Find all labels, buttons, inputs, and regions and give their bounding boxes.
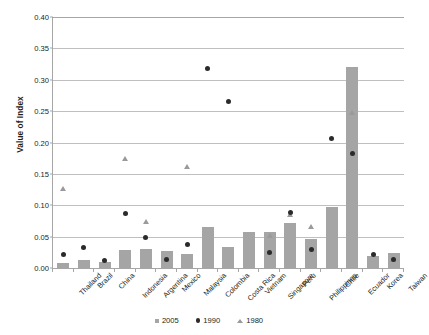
category-column <box>218 17 239 268</box>
y-tick-label: 0.15 <box>34 169 49 178</box>
x-tick-mark <box>52 269 53 272</box>
legend-item-2005[interactable]: 2005 <box>155 316 179 325</box>
point-1990 <box>143 235 148 240</box>
category-column <box>156 17 177 268</box>
y-tick-label: 0.20 <box>34 138 49 147</box>
bar-2005 <box>119 250 131 268</box>
bar-2005 <box>57 263 69 268</box>
bar-2005 <box>99 262 111 268</box>
legend-square-icon <box>155 319 159 323</box>
category-column <box>383 17 404 268</box>
x-tick-mark <box>362 269 363 272</box>
bar-2005 <box>222 247 234 268</box>
category-column <box>74 17 95 268</box>
x-tick-mark <box>403 269 404 272</box>
point-1980 <box>60 186 66 191</box>
bar-2005 <box>367 256 379 268</box>
y-tick-label: 0.25 <box>34 107 49 116</box>
plot-area: 0.000.050.100.150.200.250.300.350.40 <box>52 17 404 269</box>
legend-label: 1980 <box>246 316 263 325</box>
x-tick-mark <box>73 269 74 272</box>
x-tick-mark <box>217 269 218 272</box>
point-1990 <box>185 242 190 247</box>
point-1980 <box>349 110 355 115</box>
x-tick-label: Peru <box>301 271 318 288</box>
point-1990 <box>391 257 396 262</box>
bar-2005 <box>346 67 358 268</box>
y-tick-label: 0.00 <box>34 264 49 273</box>
category-column <box>342 17 363 268</box>
bar-2005 <box>78 260 90 268</box>
x-tick-mark <box>176 269 177 272</box>
bar-2005 <box>140 249 152 268</box>
point-1990 <box>329 136 334 141</box>
category-column <box>53 17 74 268</box>
point-1980 <box>308 224 314 229</box>
bar-2005 <box>284 223 296 268</box>
category-column <box>239 17 260 268</box>
x-tick-label: China <box>116 271 136 291</box>
point-1990 <box>309 247 314 252</box>
y-tick-label: 0.30 <box>34 75 49 84</box>
point-1990 <box>226 99 231 104</box>
x-tick-mark <box>238 269 239 272</box>
bar-2005 <box>305 239 317 268</box>
y-axis-title: Value of Index <box>16 55 25 195</box>
category-column <box>301 17 322 268</box>
category-column <box>280 17 301 268</box>
y-tick-label: 0.35 <box>34 44 49 53</box>
bar-2005 <box>202 227 214 268</box>
x-tick-label: Taiwan <box>406 271 428 293</box>
chart-legend: 200519901980 <box>0 316 418 325</box>
y-tick-label: 0.10 <box>34 201 49 210</box>
category-column <box>94 17 115 268</box>
point-1990 <box>205 66 210 71</box>
point-1980 <box>184 164 190 169</box>
category-column <box>259 17 280 268</box>
x-tick-mark <box>382 269 383 272</box>
x-tick-mark <box>197 269 198 272</box>
category-column <box>363 17 384 268</box>
bar-2005 <box>326 207 338 268</box>
point-1980 <box>143 219 149 224</box>
legend-item-1990[interactable]: 1990 <box>196 316 220 325</box>
bar-2005 <box>181 254 193 268</box>
category-column <box>136 17 157 268</box>
point-1990 <box>350 151 355 156</box>
y-tick-label: 0.05 <box>34 232 49 241</box>
x-tick-mark <box>93 269 94 272</box>
x-axis-labels: ThailandBrazilChinaIndonesiaArgentinaMex… <box>52 271 404 316</box>
point-1990 <box>61 252 66 257</box>
point-1980 <box>267 233 273 238</box>
x-tick-mark <box>135 269 136 272</box>
legend-item-1980[interactable]: 1980 <box>237 316 263 325</box>
point-1990 <box>81 245 86 250</box>
category-column <box>321 17 342 268</box>
point-1990 <box>123 211 128 216</box>
category-column <box>198 17 219 268</box>
bar-2005 <box>243 232 255 268</box>
x-tick-mark <box>258 269 259 272</box>
series-layer <box>53 17 404 268</box>
legend-label: 1990 <box>203 316 220 325</box>
x-tick-mark <box>320 269 321 272</box>
legend-circle-icon <box>196 318 201 323</box>
x-tick-mark <box>341 269 342 272</box>
y-tick-label: 0.40 <box>34 13 49 22</box>
x-tick-mark <box>114 269 115 272</box>
x-tick-mark <box>279 269 280 272</box>
category-column <box>115 17 136 268</box>
x-tick-mark <box>300 269 301 272</box>
point-1980 <box>122 156 128 161</box>
point-1990 <box>371 252 376 257</box>
category-column <box>177 17 198 268</box>
legend-triangle-icon <box>237 319 243 323</box>
x-tick-mark <box>155 269 156 272</box>
legend-label: 2005 <box>162 316 179 325</box>
